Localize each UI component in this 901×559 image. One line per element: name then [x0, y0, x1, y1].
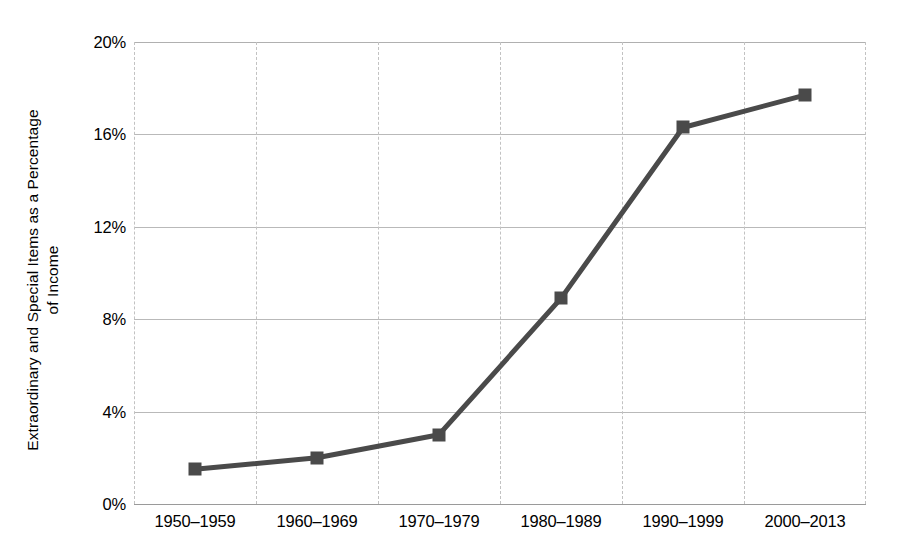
- data-point-0: [189, 463, 202, 476]
- x-axis-tick-labels: 1950–19591960–19691970–19791980–19891990…: [134, 512, 866, 542]
- chart-figure: Extraordinary and Special Items as a Per…: [0, 0, 901, 559]
- x-tick-label-2: 1970–1979: [399, 512, 480, 530]
- y-tick-label-20pct: 20%: [70, 34, 126, 51]
- data-point-2: [433, 428, 446, 441]
- plot-area: [134, 42, 866, 504]
- y-tick-label-16pct: 16%: [70, 126, 126, 143]
- x-tick-label-5: 2000–2013: [765, 512, 846, 530]
- data-point-1: [311, 451, 324, 464]
- x-tick-label-3: 1980–1989: [521, 512, 602, 530]
- data-point-4: [677, 121, 690, 134]
- x-tick-label-4: 1990–1999: [643, 512, 724, 530]
- y-axis-title-line-1: Extraordinary and Special Items as a Per…: [24, 109, 41, 451]
- y-tick-label-12pct: 12%: [70, 219, 126, 236]
- data-point-3: [555, 292, 568, 305]
- y-axis-title-text: Extraordinary and Special Items as a Per…: [23, 109, 63, 451]
- y-tick-label-4pct: 4%: [70, 403, 126, 420]
- series-line: [134, 42, 866, 504]
- x-tick-label-0: 1950–1959: [155, 512, 236, 530]
- y-tick-label-0pct: 0%: [70, 496, 126, 513]
- x-tick-label-1: 1960–1969: [277, 512, 358, 530]
- data-point-5: [799, 89, 812, 102]
- y-tick-label-8pct: 8%: [70, 311, 126, 328]
- gridline-y-0: [134, 504, 866, 505]
- y-axis-tick-labels: 0%4%8%12%16%20%: [66, 42, 126, 504]
- y-axis-title-line-2: of Income: [43, 109, 63, 451]
